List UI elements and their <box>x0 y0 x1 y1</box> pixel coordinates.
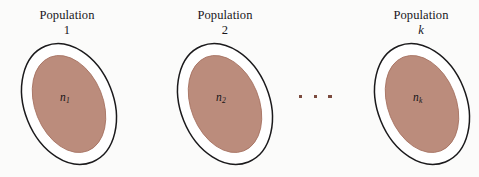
sample-size-label-2: n2 <box>216 91 226 103</box>
sample-size-subscript-1: 1 <box>66 96 70 105</box>
sample-size-symbol-2: n <box>216 91 222 103</box>
population-group-1: Population 1 n1 <box>10 0 150 177</box>
continuation-dots <box>299 95 332 98</box>
sample-size-subscript-2: 2 <box>222 96 226 105</box>
sample-size-label-1: n1 <box>60 91 70 103</box>
populations-diagram: Population 1 n1 Population 2 <box>0 0 479 177</box>
ellipsis-dot-3 <box>328 95 331 98</box>
population-ellipse-k <box>362 0 479 177</box>
population-group-k: Population k nk <box>362 0 479 177</box>
population-ellipse-2 <box>168 0 308 177</box>
sample-size-symbol-k: n <box>413 91 419 103</box>
population-ellipse-1 <box>10 0 150 177</box>
ellipsis-dot-2 <box>314 95 317 98</box>
sample-size-label-k: nk <box>413 91 422 103</box>
sample-size-symbol-1: n <box>60 91 66 103</box>
ellipsis-dot-1 <box>299 95 302 98</box>
population-group-2: Population 2 n2 <box>168 0 308 177</box>
sample-size-subscript-k: k <box>419 96 422 105</box>
